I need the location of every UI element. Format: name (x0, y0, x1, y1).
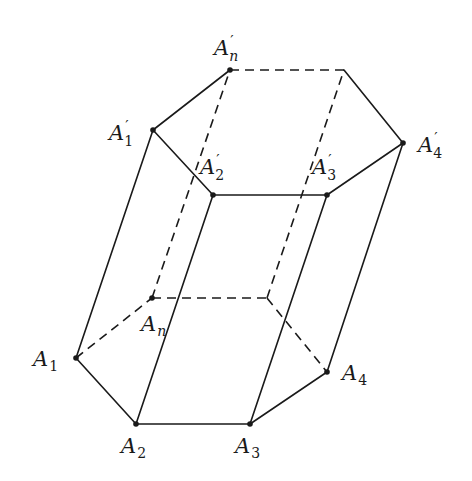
prime-mark: ′ (230, 34, 233, 49)
label-letter: A (312, 155, 327, 179)
label-letter: A (418, 133, 433, 157)
label-letter: A (109, 121, 124, 145)
label-letter: A (235, 434, 250, 458)
label-stack: ′1 (124, 123, 134, 144)
subscript: 3 (327, 168, 336, 182)
label-A2: A2 (121, 436, 146, 457)
vertex-A1p (150, 127, 156, 133)
prime-mark: ′ (216, 153, 219, 168)
label-A4p: A′4 (418, 135, 443, 156)
subscript: 4 (358, 372, 367, 388)
vertex-Anp (227, 67, 233, 73)
lateral-edge-An-Anp (152, 70, 230, 298)
label-stack: ′3 (327, 157, 337, 178)
lateral-edge-B5-T5 (267, 70, 344, 298)
vertex-A4 (324, 369, 330, 375)
vertex-A3 (247, 421, 253, 427)
vertex-A3p (324, 192, 330, 198)
lateral-edge-A2-A2p (136, 195, 213, 424)
edge-A3p-A4p (327, 143, 403, 195)
subscript: 4 (433, 146, 442, 160)
subscript: 1 (49, 358, 58, 374)
label-A3p: A′3 (312, 157, 337, 178)
lateral-edge-A4-A4p (327, 143, 403, 372)
label-letter: A (200, 155, 215, 179)
prime-mark: ′ (125, 119, 128, 134)
edge-A3-A4 (250, 372, 327, 424)
label-An: An (141, 314, 166, 335)
vertex-A1 (73, 355, 79, 361)
bottom-base-edges (76, 358, 327, 424)
edge-B5-A4 (267, 298, 327, 372)
vertex-A4p (400, 140, 406, 146)
subscript: 2 (137, 445, 146, 461)
subscript: 2 (215, 168, 224, 182)
label-letter: A (33, 347, 48, 371)
edge-A1p-Anp (153, 70, 230, 130)
label-letter: A (121, 434, 136, 458)
vertex-An (149, 295, 155, 301)
label-letter: A (141, 312, 156, 336)
subscript: n (157, 323, 166, 339)
label-A3: A3 (235, 436, 260, 457)
hidden-edges (76, 70, 344, 372)
label-stack: ′n (229, 38, 239, 59)
lateral-edge-A3-A3p (250, 195, 327, 424)
vertex-A2 (133, 421, 139, 427)
prime-mark: ′ (434, 131, 437, 146)
label-Anp: A′n (214, 38, 239, 59)
label-A1: A1 (33, 349, 58, 370)
subscript: 3 (251, 445, 260, 461)
label-letter: A (342, 361, 357, 385)
label-A2p: A′2 (200, 157, 225, 178)
subscript: n (229, 49, 238, 63)
prism-diagram (0, 0, 472, 481)
subscript: 1 (124, 134, 133, 148)
vertex-A2p (210, 192, 216, 198)
edge-A1-A2 (76, 358, 136, 424)
label-stack: ′2 (215, 157, 225, 178)
edge-T5-A4p (344, 70, 403, 143)
label-A1p: A′1 (109, 123, 134, 144)
label-A4: A4 (342, 363, 367, 384)
prime-mark: ′ (328, 153, 331, 168)
top-base-edges (153, 70, 403, 195)
label-letter: A (214, 36, 229, 60)
label-stack: ′4 (433, 135, 443, 156)
